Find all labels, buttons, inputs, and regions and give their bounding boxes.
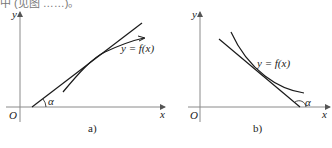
panel-a-origin-label: O (9, 110, 17, 121)
panel-b-caption: b) (253, 123, 262, 134)
panel-b-x-label: x (322, 109, 327, 120)
panel-a-caption: a) (88, 123, 97, 134)
panel-a-curve-label: y = f(x) (121, 43, 154, 54)
panel-a-angle-arc (43, 99, 46, 107)
panel-b-curve-label: y = f(x) (257, 58, 290, 69)
panel-b-angle-label: α (305, 97, 311, 108)
tangent-slope-diagram: 中 (见图 ……)。 y x O y = f(x) α a) (0, 0, 332, 148)
panel-a (6, 12, 165, 122)
panel-b-tangent-line (219, 39, 300, 107)
panel-a-y-label: y (12, 9, 17, 20)
panel-b-origin-label: O (190, 110, 198, 121)
panel-b-y-label: y (192, 9, 197, 20)
panel-a-angle-label: α (48, 96, 54, 107)
panel-a-x-label: x (160, 109, 165, 120)
diagram-canvas (0, 0, 332, 148)
